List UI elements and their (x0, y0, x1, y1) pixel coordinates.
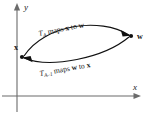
forward-curve-label: TA maps x to w (38, 20, 86, 39)
x-axis-label: x (132, 82, 137, 92)
forward-maps-text: maps (45, 24, 66, 37)
svg-text:TA maps x to w: TA maps x to w (38, 20, 86, 39)
inverse-maps-text: maps (51, 63, 72, 75)
y-axis-label: y (23, 2, 28, 12)
inverse-target-vector: x (86, 60, 92, 70)
point-label-w: w (137, 32, 143, 41)
node-dot-x (20, 55, 24, 59)
inverse-curve-arrowhead (23, 56, 33, 62)
figure-container: y x x w TA maps x to w TA–1 m (0, 0, 150, 116)
node-dot-w (129, 34, 133, 38)
y-axis-arrowhead (14, 3, 20, 11)
point-label-x: x (14, 43, 18, 52)
x-axis-arrowhead (134, 93, 142, 99)
linear-transformation-diagram: y x x w TA maps x to w TA–1 m (0, 0, 150, 116)
